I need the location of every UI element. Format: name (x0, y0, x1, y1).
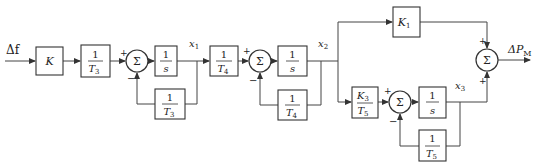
integrator-1-block: 1 s (155, 46, 177, 76)
sum-junction-1: Σ + − (120, 48, 148, 84)
svg-text:1: 1 (289, 49, 295, 60)
signal-label-x3: x3 (455, 80, 465, 93)
sum-junction-2: Σ + − (243, 46, 271, 86)
integrator-2-block: 1 s (278, 46, 307, 76)
svg-text:1: 1 (429, 90, 435, 101)
svg-text:+: + (384, 86, 392, 96)
svg-text:1: 1 (163, 49, 169, 60)
svg-text:s: s (290, 63, 295, 74)
svg-text:s: s (430, 105, 435, 116)
svg-text:1: 1 (429, 133, 435, 144)
svg-text:+: + (120, 48, 128, 58)
k3-over-t5-block: K3 T5 (352, 87, 378, 118)
svg-text:1: 1 (167, 92, 173, 103)
svg-text:+: + (243, 46, 251, 56)
feedback-inv-t3-block: 1 T3 (155, 89, 185, 119)
integrator-3-block: 1 s (419, 87, 446, 118)
signal-label-x2: x2 (318, 38, 328, 51)
svg-text:+: + (479, 36, 487, 46)
svg-text:1: 1 (92, 49, 98, 60)
inv-t4-block: 1 T4 (210, 46, 238, 76)
svg-text:Σ: Σ (133, 55, 141, 68)
block-diagram: Δf ΔPM K 1 T3 1 s 1 T3 1 T4 1 s (0, 0, 538, 164)
svg-text:Σ: Σ (256, 55, 264, 68)
output-label: ΔPM (507, 43, 532, 58)
svg-text:Σ: Σ (483, 54, 491, 67)
inv-t3-block: 1 T3 (81, 45, 110, 77)
gain-k1-block: K1 (393, 7, 420, 37)
svg-text:s: s (163, 63, 168, 74)
signal-label-x1: x1 (189, 38, 199, 51)
svg-text:+: + (479, 76, 487, 86)
feedback-inv-t4-block: 1 T4 (278, 90, 307, 120)
gain-k-block: K (36, 47, 63, 75)
input-label: Δf (6, 43, 21, 57)
svg-text:K: K (44, 55, 54, 68)
sum-junction-3: Σ + − (384, 86, 411, 127)
svg-text:−: − (249, 75, 257, 86)
svg-text:Σ: Σ (396, 96, 404, 109)
svg-text:1: 1 (221, 49, 227, 60)
svg-text:1: 1 (289, 93, 295, 104)
signal-wires (5, 22, 530, 146)
svg-text:−: − (127, 73, 135, 84)
svg-text:−: − (389, 116, 397, 127)
feedback-inv-t5-block: 1 T5 (419, 130, 446, 161)
